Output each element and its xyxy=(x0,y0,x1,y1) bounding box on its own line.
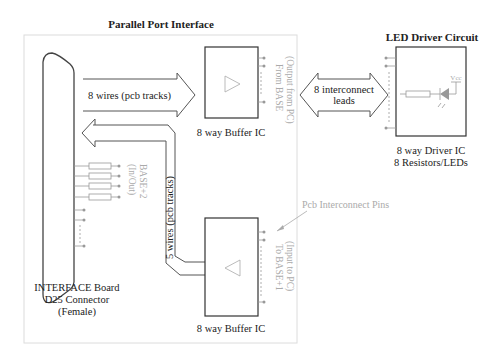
buffer-bottom-pin-dots xyxy=(263,231,266,304)
base2-pin-dots xyxy=(83,165,121,248)
buffer-top-port-label-1: From BASE xyxy=(274,64,284,111)
wires-in-label: 5 wires (pcb tracks) xyxy=(164,175,176,259)
base2-port-label-2: (In/Out) xyxy=(126,164,137,195)
led-driver-title: LED Driver Circuit xyxy=(386,31,479,43)
base2-resistor-array xyxy=(74,163,118,246)
connector-label-3: (Female) xyxy=(58,306,96,318)
parallel-port-title: Parallel Port Interface xyxy=(108,18,214,30)
driver-label-2: 8 Resistors/LEDs xyxy=(394,157,468,168)
driver-pins xyxy=(386,58,396,128)
d25-connector-icon xyxy=(43,53,74,303)
buffer-top-pins xyxy=(258,58,264,102)
diagram-canvas: Parallel Port Interface LED Driver Circu… xyxy=(0,0,489,361)
interconnect-label-1: 8 interconnect xyxy=(314,84,374,95)
pcb-pins-annotation: Pcb Interconnect Pins xyxy=(302,199,389,210)
buffer-top-port-label-2: (Output from PC) xyxy=(284,56,295,124)
buffer-ic-bottom xyxy=(205,218,258,316)
connector-label-1: INTERFACE Board xyxy=(34,282,120,293)
buffer-top-pin-dots xyxy=(263,57,266,104)
interconnect-label-2: leads xyxy=(333,95,355,106)
connector-label-2: D25 Connector xyxy=(45,294,110,305)
annotation-arrowhead-icon xyxy=(277,225,284,231)
driver-label-1: 8 way Driver IC xyxy=(397,145,466,156)
buffer-ic-top xyxy=(205,47,258,118)
buffer-bottom-port-label-2: (Input to PC) xyxy=(284,241,295,291)
buffer-bottom-port-label-1: To BASE+1 xyxy=(274,244,284,291)
base2-port-label-1: BASE+2 xyxy=(138,164,148,199)
buffer-bottom-label: 8 way Buffer IC xyxy=(197,323,265,334)
wires-out-label: 8 wires (pcb tracks) xyxy=(88,90,172,102)
buffer-top-label: 8 way Buffer IC xyxy=(197,127,265,138)
vcc-label: Vcc xyxy=(450,74,461,82)
buffer-bottom-pins xyxy=(258,232,264,302)
driver-ic-box xyxy=(396,47,466,136)
